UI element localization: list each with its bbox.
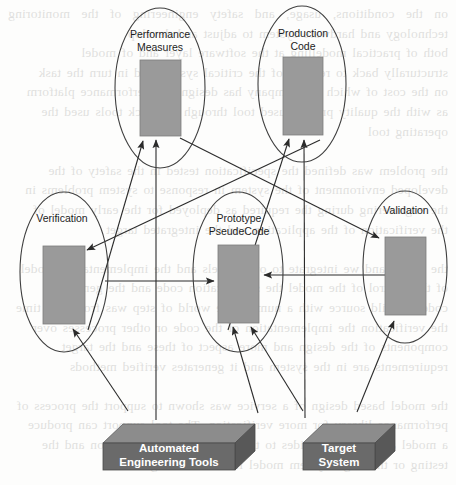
node-prototype-pseudocode[interactable]: Prototype PseudeCode: [193, 192, 283, 352]
validation-box: [385, 237, 426, 315]
production-code-label-line2: Code: [290, 40, 315, 52]
prototype-pseudocode-box: [218, 245, 259, 323]
prototype-pseudocode-label-line1: Prototype: [217, 212, 262, 224]
diagram-canvas: on the conditions, usage, and safety eng…: [0, 0, 456, 485]
performance-measures-box: [140, 60, 181, 136]
node-target-system[interactable]: Target System: [303, 424, 395, 470]
target-system-label-line2: System: [319, 456, 360, 468]
verification-box: [43, 246, 85, 324]
node-automated-engineering-tools[interactable]: Automated Engineering Tools: [103, 424, 255, 470]
automated-engineering-tools-top-face: [103, 424, 255, 443]
connection-target-to-validation: [357, 321, 394, 412]
node-production-code[interactable]: Production Code: [258, 6, 346, 162]
connection-tools-to-verification: [73, 329, 128, 411]
verification-label-line1: Verification: [36, 212, 88, 224]
connection-verification-to-performance: [88, 141, 143, 330]
prototype-pseudocode-label-line2: PseudeCode: [209, 225, 270, 237]
performance-measures-label-line1: Performance: [130, 28, 190, 40]
node-verification[interactable]: Verification: [20, 192, 108, 352]
node-validation[interactable]: Validation: [363, 191, 447, 343]
automated-engineering-tools-label-line2: Engineering Tools: [119, 456, 218, 468]
connection-target-to-production: [304, 140, 305, 418]
target-system-label-line1: Target: [322, 442, 356, 454]
connection-tools-to-prototype: [233, 327, 258, 413]
connection-target-to-prototype: [251, 327, 303, 411]
production-code-box: [283, 57, 323, 135]
connection-performance-to-validation: [180, 138, 379, 238]
performance-measures-label-line2: Measures: [137, 41, 183, 53]
validation-label-line1: Validation: [383, 204, 428, 216]
process-diagram: Performance Measures Production Code Ver…: [0, 0, 456, 485]
production-code-label-line1: Production: [278, 27, 328, 39]
automated-engineering-tools-label-line1: Automated: [139, 442, 199, 454]
